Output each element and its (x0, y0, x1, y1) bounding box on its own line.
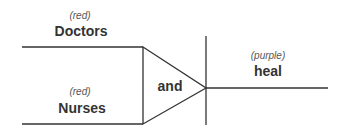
nurses-color-tag: (red) (69, 86, 90, 97)
doctors-label: Doctors (55, 23, 108, 39)
gate-label: and (158, 78, 183, 94)
heal-color-tag: (purple) (251, 50, 285, 61)
heal-label: heal (254, 63, 282, 79)
doctors-color-tag: (red) (69, 10, 90, 21)
nurses-label: Nurses (58, 100, 105, 116)
diagram-lines (0, 0, 345, 133)
